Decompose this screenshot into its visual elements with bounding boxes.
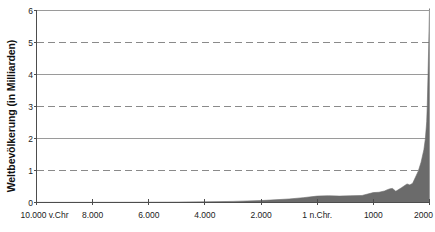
series-layer bbox=[37, 9, 430, 203]
area-series-weltbevoelkerung bbox=[37, 9, 430, 203]
population-area-chart: Weltbevölkerung (in Milliarden) 6543210 … bbox=[0, 0, 435, 232]
gridlines bbox=[37, 11, 430, 171]
plot-area bbox=[0, 0, 435, 232]
